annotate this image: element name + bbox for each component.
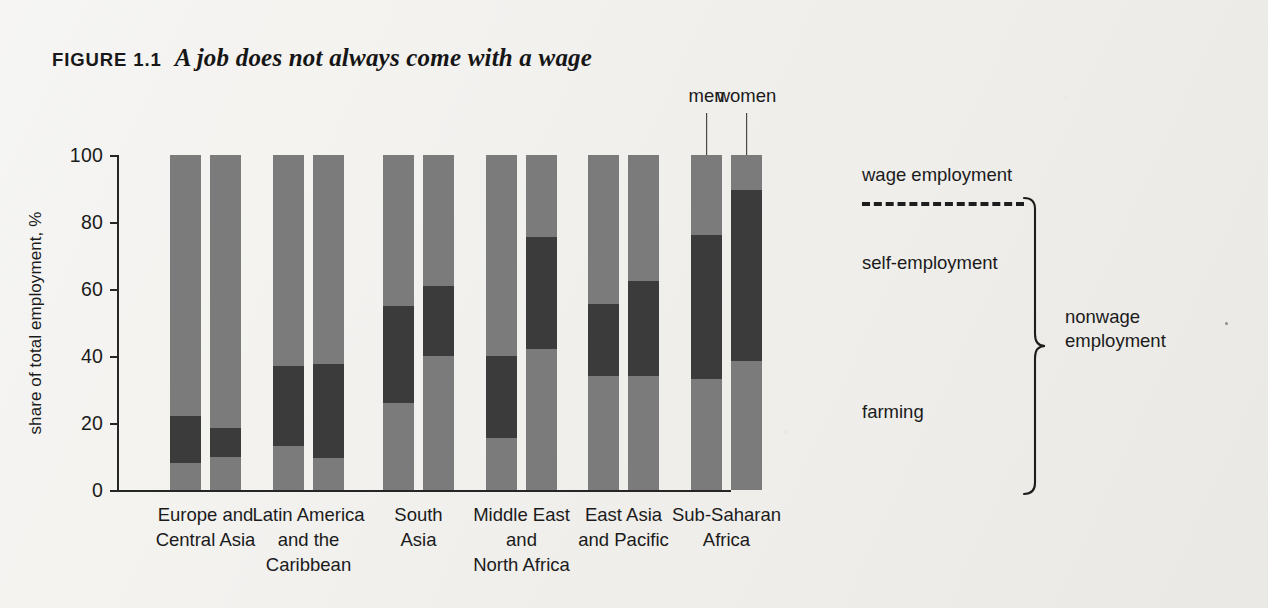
bar-segment-self-employment[interactable] — [273, 366, 304, 446]
bar-segment-farming[interactable] — [486, 438, 517, 490]
y-tick-0: 0 — [110, 490, 118, 492]
wage-nonwage-divider-dashed-line — [862, 202, 1024, 206]
bar-group-south-asia: South Asia — [383, 155, 454, 490]
y-axis-title: share of total employment, % — [26, 212, 46, 435]
bar-segment-farming[interactable] — [588, 376, 619, 490]
bar-segment-self-employment[interactable] — [170, 416, 201, 463]
bar-segment-wage-employment[interactable] — [691, 155, 722, 235]
bar-group-europe-and-central-asia: Europe and Central Asia — [170, 155, 241, 490]
y-tick-label-100: 100 — [70, 144, 103, 167]
bar-segment-wage-employment[interactable] — [383, 155, 414, 306]
bar-segment-wage-employment[interactable] — [313, 155, 344, 364]
bar-men[interactable] — [170, 155, 201, 490]
bar-segment-wage-employment[interactable] — [731, 155, 762, 190]
bar-segment-farming[interactable] — [170, 463, 201, 490]
bar-men[interactable] — [273, 155, 304, 490]
legend-label-self-employment: self-employment — [862, 251, 998, 275]
bar-segment-wage-employment[interactable] — [486, 155, 517, 356]
bar-segment-farming[interactable] — [691, 379, 722, 490]
bar-segment-wage-employment[interactable] — [526, 155, 557, 237]
bar-segment-farming[interactable] — [731, 361, 762, 490]
bar-women[interactable] — [423, 155, 454, 490]
y-tick-label-0: 0 — [92, 479, 103, 502]
bar-segment-farming[interactable] — [313, 458, 344, 490]
bar-segment-self-employment[interactable] — [423, 286, 454, 356]
bar-segment-farming[interactable] — [383, 403, 414, 490]
bar-segment-farming[interactable] — [423, 356, 454, 490]
bar-group-east-asia-and-pacific: East Asia and Pacific — [588, 155, 659, 490]
y-tick-60: 60 — [110, 289, 118, 291]
bar-group-latin-america-and-the-caribbean: Latin America and the Caribbean — [273, 155, 344, 490]
y-tick-20: 20 — [110, 423, 118, 425]
bar-segment-self-employment[interactable] — [628, 281, 659, 376]
figure-title: A job does not always come with a wage — [175, 44, 592, 72]
bar-segment-wage-employment[interactable] — [210, 155, 241, 428]
chart-plot-area: share of total employment, % 10080604020… — [118, 155, 718, 490]
bar-men[interactable] — [588, 155, 619, 490]
bar-segment-self-employment[interactable] — [313, 364, 344, 458]
y-tick-80: 80 — [110, 222, 118, 224]
bar-women[interactable] — [731, 155, 762, 490]
bar-segment-self-employment[interactable] — [731, 190, 762, 361]
bar-segment-farming[interactable] — [526, 349, 557, 490]
bar-segment-wage-employment[interactable] — [628, 155, 659, 281]
y-tick-label-80: 80 — [81, 211, 103, 234]
paper-speck — [1225, 322, 1228, 325]
bar-segment-farming[interactable] — [273, 446, 304, 490]
legend-label-farming: farming — [862, 400, 924, 424]
y-tick-40: 40 — [110, 356, 118, 358]
bar-group-sub-saharan-africa: Sub-Saharan Africa — [691, 155, 762, 490]
y-tick-100: 100 — [110, 155, 118, 157]
bar-segment-wage-employment[interactable] — [423, 155, 454, 286]
bar-segment-wage-employment[interactable] — [170, 155, 201, 416]
bar-segment-self-employment[interactable] — [691, 235, 722, 379]
y-tick-label-20: 20 — [81, 412, 103, 435]
x-axis-line — [117, 490, 731, 492]
callout-leader-line-women — [746, 113, 748, 155]
bar-women[interactable] — [210, 155, 241, 490]
bar-segment-farming[interactable] — [628, 376, 659, 490]
category-label: Sub-Saharan Africa — [632, 502, 822, 552]
bar-segment-farming[interactable] — [210, 457, 241, 491]
nonwage-bracket — [1020, 196, 1046, 496]
callout-label-women: women — [717, 85, 777, 107]
figure-page: FIGURE 1.1 A job does not always come wi… — [0, 0, 1268, 608]
figure-number-label: FIGURE 1.1 — [52, 49, 162, 71]
y-tick-label-60: 60 — [81, 278, 103, 301]
bar-men[interactable] — [383, 155, 414, 490]
bar-women[interactable] — [628, 155, 659, 490]
bar-men[interactable] — [486, 155, 517, 490]
bar-segment-self-employment[interactable] — [383, 306, 414, 403]
legend-label-wage-employment: wage employment — [862, 163, 1012, 187]
bar-group-middle-east-and-north-africa: Middle East and North Africa — [486, 155, 557, 490]
bar-segment-self-employment[interactable] — [526, 237, 557, 349]
callout-leader-line-men — [706, 113, 708, 155]
bar-women[interactable] — [526, 155, 557, 490]
legend-label-nonwage-employment: nonwage employment — [1065, 305, 1166, 353]
bar-women[interactable] — [313, 155, 344, 490]
y-axis-line — [117, 155, 119, 491]
bar-men[interactable] — [691, 155, 722, 490]
bar-segment-self-employment[interactable] — [210, 428, 241, 456]
bar-segment-self-employment[interactable] — [588, 304, 619, 376]
y-tick-label-40: 40 — [81, 345, 103, 368]
bar-segment-self-employment[interactable] — [486, 356, 517, 438]
figure-heading: FIGURE 1.1 A job does not always come wi… — [52, 44, 592, 72]
bar-segment-wage-employment[interactable] — [588, 155, 619, 304]
bar-segment-wage-employment[interactable] — [273, 155, 304, 366]
